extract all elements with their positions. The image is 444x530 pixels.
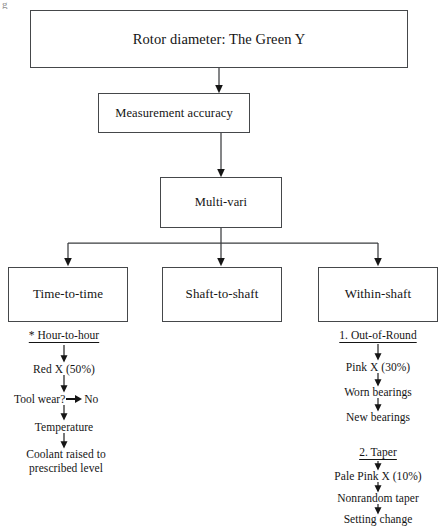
node-taper: 2. Taper [318,446,438,460]
node-coolant-raised: Coolant raised to prescribed level [1,448,131,476]
figure-caption-stub: g [2,0,16,9]
box-shaft-to-shaft-label: Shaft-to-shaft [186,287,259,302]
node-setting-change: Setting change [318,513,438,527]
node-tool-wear-label: Tool wear? [14,393,65,405]
box-green-y-label: Rotor diameter: The Green Y [133,31,306,48]
box-time-to-time[interactable]: Time-to-time [8,267,128,322]
right-arrow-icon [66,395,83,404]
node-red-x: Red X (50%) [6,363,122,377]
box-time-to-time-label: Time-to-time [33,287,103,302]
node-pink-x: Pink X (30%) [318,361,438,375]
node-tool-wear-answer: No [84,393,98,405]
box-green-y[interactable]: Rotor diameter: The Green Y [30,10,408,68]
node-new-bearings: New bearings [318,411,438,425]
node-worn-bearings: Worn bearings [318,386,438,400]
node-hour-to-hour: * Hour-to-hour [6,329,122,343]
box-within-shaft-label: Within-shaft [345,287,411,302]
box-within-shaft[interactable]: Within-shaft [318,267,438,322]
node-tool-wear-decision: Tool wear? No [14,393,98,405]
node-temperature: Temperature [6,421,122,435]
node-coolant-line2: prescribed level [29,462,103,474]
node-nonrandom-taper: Nonrandom taper [312,492,444,506]
box-measurement-accuracy[interactable]: Measurement accuracy [98,93,250,133]
node-coolant-line1: Coolant raised to [26,448,105,460]
node-out-of-round: 1. Out-of-Round [318,329,438,343]
box-shaft-to-shaft[interactable]: Shaft-to-shaft [162,267,282,322]
box-measurement-accuracy-label: Measurement accuracy [115,106,233,120]
node-pale-pink-x: Pale Pink X (10%) [312,470,444,484]
flowchart-canvas: g [0,0,444,530]
box-multi-vari[interactable]: Multi-vari [160,177,282,228]
box-multi-vari-label: Multi-vari [195,195,247,209]
